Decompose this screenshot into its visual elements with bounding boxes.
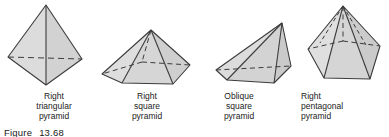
shape-right-square-pyramid bbox=[99, 26, 193, 88]
label-line-1: Right bbox=[115, 91, 179, 101]
label-line-3: pyramid bbox=[207, 111, 271, 121]
label-line-3: pyramid bbox=[115, 111, 179, 121]
label-line-2: square bbox=[115, 101, 179, 111]
label-line-3: pyramid bbox=[22, 111, 86, 121]
label-oblique-square-pyramid: Oblique square pyramid bbox=[207, 91, 271, 121]
caption-label: Figure bbox=[4, 127, 32, 137]
pyramids-figure: Right triangular pyramid Right square py… bbox=[0, 0, 389, 137]
caption-number: 13.68 bbox=[39, 127, 64, 137]
right-pentagonal-pyramid-icon bbox=[298, 3, 388, 88]
label-line-1: Oblique bbox=[207, 91, 271, 101]
figure-caption: Figure13.68 bbox=[4, 127, 64, 137]
label-right-triangular-pyramid: Right triangular pyramid bbox=[22, 91, 86, 121]
label-line-1: Right bbox=[301, 91, 373, 101]
label-line-2: square bbox=[207, 101, 271, 111]
oblique-square-pyramid-icon bbox=[205, 18, 295, 88]
label-right-square-pyramid: Right square pyramid bbox=[115, 91, 179, 121]
label-line-2: triangular bbox=[22, 101, 86, 111]
label-line-1: Right bbox=[22, 91, 86, 101]
shape-oblique-square-pyramid bbox=[205, 18, 295, 88]
label-line-3: pyramid bbox=[301, 111, 373, 121]
shape-right-triangular-pyramid bbox=[2, 2, 94, 88]
right-triangular-pyramid-icon bbox=[2, 2, 94, 88]
shape-right-pentagonal-pyramid bbox=[298, 3, 388, 88]
label-line-2: pentagonal bbox=[301, 101, 373, 111]
label-right-pentagonal-pyramid: Right pentagonal pyramid bbox=[301, 91, 373, 121]
right-square-pyramid-icon bbox=[99, 26, 193, 88]
